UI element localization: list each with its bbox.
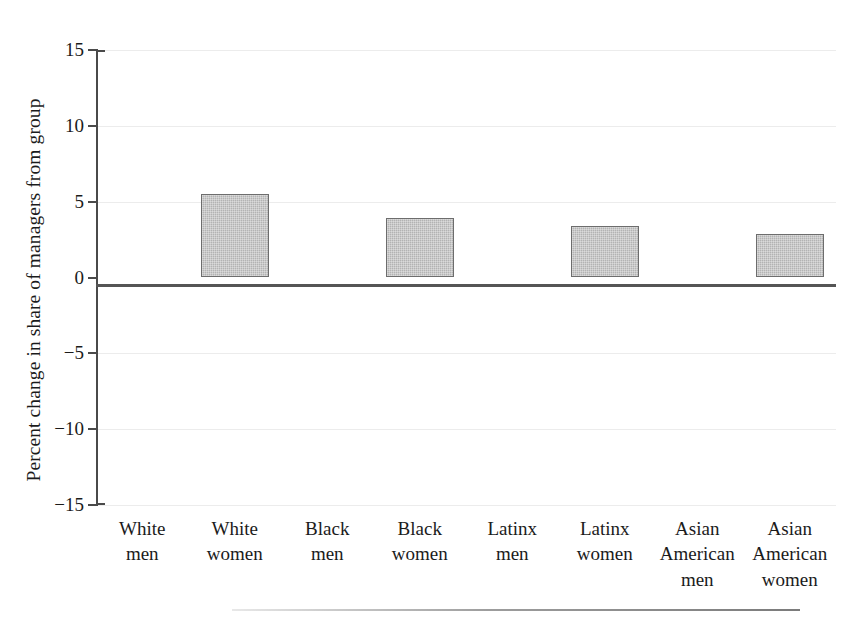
y-tick-label: −15 [24, 495, 84, 514]
y-tick-label: 10 [24, 116, 84, 135]
bar-chart-figure: Percent change in share of managers from… [0, 0, 863, 629]
gridline [96, 50, 836, 51]
page-bottom-rule [232, 609, 800, 611]
x-axis-label-line: American [651, 541, 744, 566]
x-axis-label-line: Latinx [466, 516, 559, 541]
x-axis-label: Whitewomen [189, 516, 282, 602]
y-axis-cap-top [96, 50, 105, 52]
x-axis-label-line: Black [374, 516, 467, 541]
x-axis-label-line: Latinx [559, 516, 652, 541]
zero-baseline [96, 284, 836, 287]
x-axis-label-line: White [189, 516, 282, 541]
x-axis-label-line: American [744, 541, 837, 566]
x-axis-label-line: men [466, 541, 559, 566]
y-tick-label: 0 [24, 268, 84, 287]
gridline [96, 126, 836, 127]
x-axis-label: Blackwomen [374, 516, 467, 602]
x-axis-label-line: men [96, 541, 189, 566]
x-axis-labels: WhitemenWhitewomenBlackmenBlackwomenLati… [96, 516, 836, 602]
x-axis-label-line: Asian [744, 516, 837, 541]
x-axis-label-line: Asian [651, 516, 744, 541]
bar [386, 218, 454, 277]
x-axis-label-line: men [651, 567, 744, 592]
x-axis-label-line: women [559, 541, 652, 566]
x-axis-label: Latinxmen [466, 516, 559, 602]
x-axis-label-line: women [189, 541, 282, 566]
gridline [96, 505, 836, 506]
x-axis-label-line: White [96, 516, 189, 541]
x-axis-label-line: women [744, 567, 837, 592]
x-axis-label-line: women [374, 541, 467, 566]
gridline [96, 429, 836, 430]
x-axis-label-line: men [281, 541, 374, 566]
gridline [96, 353, 836, 354]
y-tick-label: −5 [24, 343, 84, 362]
y-tick-label: 15 [24, 40, 84, 59]
bar [571, 226, 639, 278]
x-axis-label: AsianAmericanmen [651, 516, 744, 602]
x-axis-label: AsianAmericanwomen [744, 516, 837, 602]
y-tick-label: 5 [24, 192, 84, 211]
x-axis-label-line: Black [281, 516, 374, 541]
x-axis-label: Blackmen [281, 516, 374, 602]
y-axis-cap-bottom [96, 503, 105, 505]
bar [756, 234, 824, 278]
y-tick-label: −10 [24, 419, 84, 438]
x-axis-label: Latinxwomen [559, 516, 652, 602]
x-axis-label: Whitemen [96, 516, 189, 602]
y-axis-spine [96, 50, 98, 505]
bar [201, 194, 269, 277]
